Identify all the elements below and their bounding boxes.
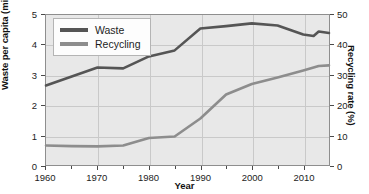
y-tick-label-left: 3 <box>0 69 37 80</box>
y-tick-label-right: 30 <box>337 69 348 80</box>
x-tick-label: 1960 <box>34 172 55 183</box>
y-tick-right <box>330 166 334 167</box>
legend-item-recycling[interactable]: Recycling <box>60 37 141 51</box>
x-tick-minor <box>278 166 279 169</box>
x-tick-label: 2010 <box>294 172 315 183</box>
y-tick-label-left: 4 <box>0 39 37 50</box>
x-tick-label: 1970 <box>86 172 107 183</box>
y-tick-label-right: 40 <box>337 39 348 50</box>
chart-figure: Waste per capita (million tons) Recyclin… <box>0 0 369 194</box>
legend-swatch-icon <box>60 42 88 46</box>
y-tick-right <box>330 75 334 76</box>
x-tick-minor <box>175 166 176 169</box>
legend-swatch-icon <box>60 28 88 32</box>
chart-legend: WasteRecycling <box>53 18 151 56</box>
x-tick-label: 1990 <box>190 172 211 183</box>
legend-label: Waste <box>95 25 124 36</box>
y-tick-right <box>330 136 334 137</box>
x-tick-minor <box>226 166 227 169</box>
y-tick-label-left: 0 <box>0 161 37 172</box>
y-tick-label-left: 5 <box>0 9 37 20</box>
legend-label: Recycling <box>95 39 141 50</box>
x-tick-label: 1980 <box>138 172 159 183</box>
x-tick <box>201 166 202 170</box>
x-tick-label: 2000 <box>242 172 263 183</box>
y-axis-right-title: Recycling rate (%) <box>346 45 357 126</box>
x-tick-minor <box>123 166 124 169</box>
y-tick-label-left: 1 <box>0 130 37 141</box>
x-tick <box>149 166 150 170</box>
series-line-recycling <box>46 65 329 146</box>
y-tick-right <box>330 105 334 106</box>
legend-item-waste[interactable]: Waste <box>60 23 141 37</box>
y-tick-label-right: 50 <box>337 9 348 20</box>
y-tick-right <box>330 14 334 15</box>
x-tick <box>45 166 46 170</box>
y-tick-label-right: 0 <box>337 161 342 172</box>
x-tick <box>252 166 253 170</box>
x-tick <box>97 166 98 170</box>
x-tick-minor <box>71 166 72 169</box>
x-tick <box>304 166 305 170</box>
y-tick-label-right: 10 <box>337 130 348 141</box>
y-tick-label-left: 2 <box>0 100 37 111</box>
y-tick-label-right: 20 <box>337 100 348 111</box>
y-tick-right <box>330 44 334 45</box>
